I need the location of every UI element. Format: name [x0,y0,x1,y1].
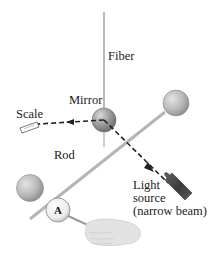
sphere-left [17,175,44,202]
sphere-a-label: A [54,203,62,217]
light-source-label-1: Light [133,178,160,192]
diagram-graphics [0,0,216,265]
scale-label: Scale [16,107,43,121]
scale-icon [20,122,39,133]
hand-icon [85,219,140,245]
fiber-label: Fiber [108,49,134,63]
sphere-right [163,90,189,116]
light-source-icon [164,172,192,200]
reflected-beam-arrow-icon [66,119,74,125]
light-source-label-2: source [133,191,166,205]
mirror-label: Mirror [69,93,102,107]
rod-label: Rod [54,148,75,162]
light-source-label-3: (narrow beam) [133,204,207,218]
torsion-balance-diagram: Fiber Mirror Scale Rod Light source (nar… [0,0,216,265]
